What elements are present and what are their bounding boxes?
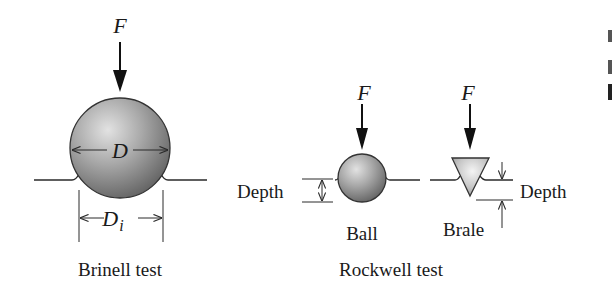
hardness-test-diagram: F D Di Brinell test F: [0, 0, 616, 289]
brale-indenter: [452, 158, 489, 196]
brale-indenter-label: Brale: [443, 219, 484, 240]
ball-depth-label: Depth: [237, 181, 284, 202]
edge-artifact: [608, 60, 612, 74]
brinell-diameter-label: D: [111, 138, 128, 163]
brinell-force-label: F: [112, 13, 127, 38]
brale-force-arrow-icon: [464, 104, 476, 150]
edge-artifact: [608, 30, 612, 42]
brinell-impression-label: Di: [101, 206, 123, 234]
brinell-caption: Brinell test: [78, 259, 163, 280]
rockwell-caption: Rockwell test: [339, 259, 444, 280]
brale-force-label: F: [460, 80, 475, 105]
brinell-test-group: F D Di Brinell test: [34, 13, 207, 280]
brinell-force-arrow-icon: [113, 42, 127, 92]
brinell-surface-line: [34, 174, 79, 180]
ball-indenter-label: Ball: [346, 223, 378, 244]
brale-depth-label: Depth: [520, 181, 567, 202]
ball-force-arrow-icon: [356, 104, 368, 150]
rockwell-brale-group: F Depth Brale: [430, 80, 567, 240]
edge-artifact: [608, 84, 612, 100]
rockwell-ball-group: F Depth Ball: [237, 80, 420, 244]
ball-force-label: F: [356, 80, 371, 105]
ball-indenter: [338, 154, 386, 202]
